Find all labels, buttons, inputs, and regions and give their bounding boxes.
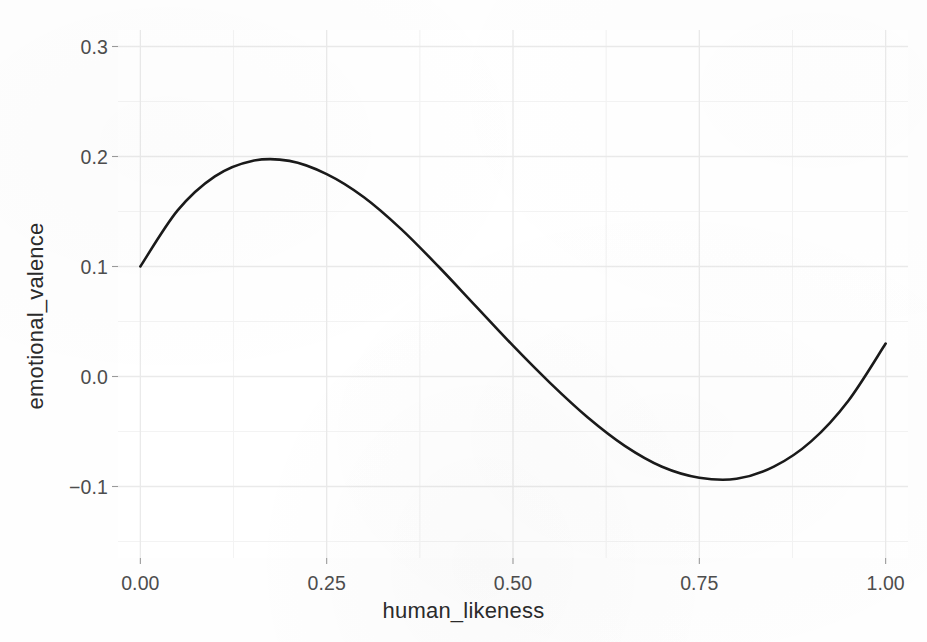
y-tick-label: 0.3 (38, 35, 108, 58)
y-tick-label: 0.2 (38, 145, 108, 168)
x-tick-label: 0.25 (307, 572, 345, 595)
x-tick-label: 0.00 (121, 572, 159, 595)
x-tick-label: 1.00 (866, 572, 904, 595)
x-tick-label: 0.50 (494, 572, 532, 595)
y-tick-label: −0.1 (38, 475, 108, 498)
chart-page: 0.30.20.10.0−0.1 0.000.250.500.751.00 hu… (0, 0, 927, 642)
x-tick-label: 0.75 (680, 572, 718, 595)
chart-plot-area (0, 0, 927, 642)
x-axis-title: human_likeness (0, 598, 927, 624)
y-axis-title: emotional_valence (23, 176, 49, 456)
